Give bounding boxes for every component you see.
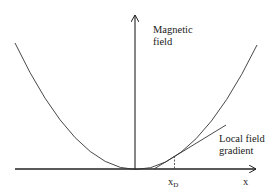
x-axis-label-text: x	[243, 176, 248, 187]
diagram-canvas	[0, 0, 278, 196]
y-axis-label-line1: Magnetic	[153, 24, 193, 36]
xd-label-sub: D	[173, 181, 178, 189]
tangent-line	[154, 125, 226, 169]
x-axis-label: x	[243, 176, 248, 188]
tangent-label-line2: gradient	[219, 145, 265, 157]
tangent-label-line1: Local field	[219, 133, 265, 145]
y-axis-label: Magnetic field	[153, 24, 193, 48]
y-axis-label-line2: field	[153, 36, 193, 48]
xd-label: xD	[168, 176, 178, 191]
tangent-label: Local field gradient	[219, 133, 265, 157]
